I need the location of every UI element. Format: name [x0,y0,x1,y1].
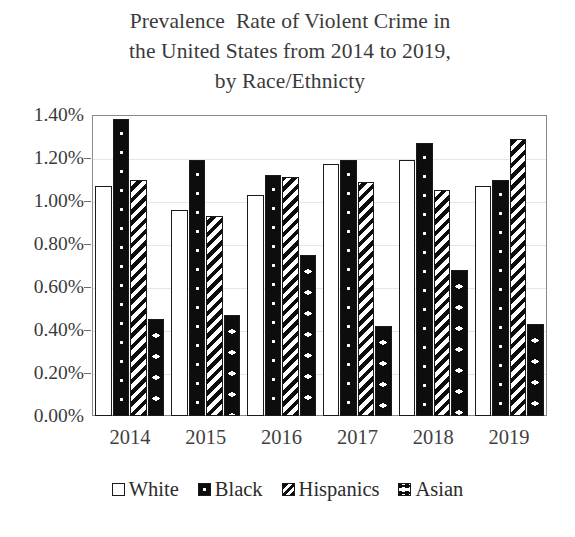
gridline [93,202,546,203]
x-axis-tick-label: 2014 [92,424,168,450]
gridline [93,245,546,246]
legend-label: Hispanics [299,478,380,500]
chart-legend: WhiteBlackHispanicsAsian [0,478,575,500]
y-axis-tick-label: 1.00% [0,191,84,211]
gridline [93,331,546,332]
y-axis-tick-label: 1.20% [0,148,84,168]
y-axis-tick-label: 0.20% [0,363,84,383]
y-axis-tick-mark [84,201,91,202]
legend-label: Black [215,478,263,500]
legend-item-black[interactable]: Black [198,478,263,500]
legend-item-asian[interactable]: Asian [398,478,463,500]
x-axis: 201420152016201720182019 [92,424,547,456]
chart-title-line-3: by Race/Ethnicty [60,66,520,96]
y-axis: 0.00%0.20%0.40%0.60%0.80%1.00%1.20%1.40% [0,115,84,416]
gridline [93,288,546,289]
gridline [93,374,546,375]
y-axis-tick-label: 0.80% [0,234,84,254]
y-axis-tick-mark [84,287,91,288]
x-axis-tick-label: 2019 [471,424,547,450]
legend-swatch-icon-asian [398,483,411,496]
plot-area [92,115,547,416]
chart-title-line-1: Prevalence Rate of Violent Crime in [60,6,520,36]
x-axis-tick-label: 2018 [395,424,471,450]
x-axis-tick-label: 2015 [168,424,244,450]
gridline [93,159,546,160]
y-axis-tick-label: 1.40% [0,105,84,125]
legend-swatch-icon-black [198,483,211,496]
y-axis-tick-mark [84,373,91,374]
y-axis-tick-label: 0.40% [0,320,84,340]
y-axis-tick-mark [84,244,91,245]
chart-title: Prevalence Rate of Violent Crime in the … [60,6,520,96]
legend-label: Asian [415,478,463,500]
y-axis-tick-mark [84,330,91,331]
y-axis-tick-label: 0.00% [0,406,84,426]
legend-label: White [129,478,179,500]
bar-chart-figure: Prevalence Rate of Violent Crime in the … [0,0,575,537]
legend-item-hispanics[interactable]: Hispanics [282,478,380,500]
x-axis-tick-label: 2016 [244,424,320,450]
y-axis-tick-mark [84,158,91,159]
legend-item-white[interactable]: White [112,478,179,500]
x-axis-tick-label: 2017 [320,424,396,450]
legend-swatch-icon-hispanics [282,483,295,496]
y-axis-tick-label: 0.60% [0,277,84,297]
legend-swatch-icon-white [112,483,125,496]
chart-title-line-2: the United States from 2014 to 2019, [60,36,520,66]
